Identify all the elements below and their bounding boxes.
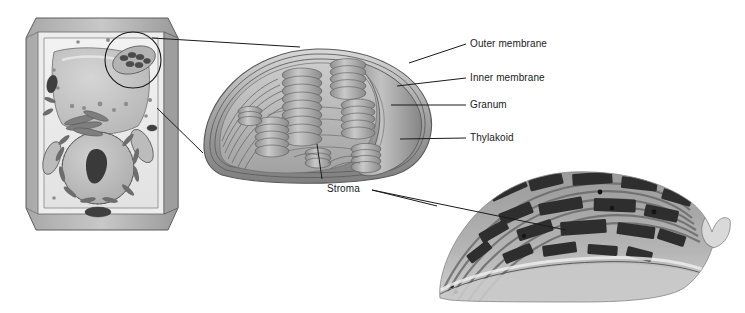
granum (238, 106, 262, 125)
stroma-leader-micrograph-upper (372, 190, 437, 206)
granum (305, 148, 331, 168)
label-outer-membrane: Outer membrane (470, 38, 547, 50)
granum (351, 143, 381, 172)
chloroplast-diagram (198, 45, 442, 187)
plant-cell-illustration (18, 8, 188, 236)
granum (341, 99, 375, 139)
micrograph-body (432, 170, 738, 310)
label-stroma: Stroma (327, 183, 360, 195)
granum (330, 59, 366, 100)
label-thylakoid: Thylakoid (470, 132, 514, 144)
granum (282, 68, 322, 146)
figure-canvas: Outer membrane Inner membrane Granum Thy… (0, 0, 745, 313)
label-granum: Granum (470, 99, 507, 111)
label-inner-membrane: Inner membrane (470, 72, 545, 84)
chloroplast-micrograph (432, 170, 734, 310)
